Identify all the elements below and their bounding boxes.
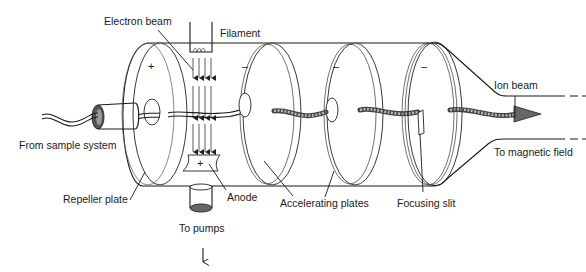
label-filament: Filament [220,27,260,39]
label-ion-beam: Ion beam [494,79,538,91]
label-accelerating-plates: Accelerating plates [280,197,369,209]
electron-beam [193,58,211,152]
plate3-sign: – [421,60,428,72]
label-repeller-plate: Repeller plate [63,193,128,205]
ion-beam-path [274,106,541,122]
repeller-sign: + [148,60,154,72]
label-focusing-slit: Focusing slit [397,197,455,209]
focusing-slit [418,110,424,135]
label-from-sample-system: From sample system [19,139,117,151]
label-electron-beam: Electron beam [104,15,172,27]
plate2-sign: – [333,60,340,72]
repeller-plate [122,43,187,186]
anode-sign: + [197,157,203,169]
filament [190,22,212,52]
label-to-pumps: To pumps [179,222,225,234]
label-anode: Anode [227,191,258,203]
plate1-sign: – [242,60,249,72]
label-to-magnetic-field: To magnetic field [494,146,573,158]
ion-beam-arrowhead [514,106,541,122]
ion-source-diagram: + – – – + Electron beam Filament From sa… [0,0,586,272]
